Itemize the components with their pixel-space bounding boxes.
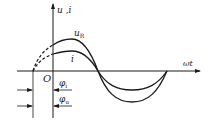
y-axis-label: u ,i bbox=[57, 5, 72, 15]
phi-i-label: φi bbox=[59, 78, 67, 89]
phi-u-label: φu bbox=[59, 94, 69, 105]
i-label: i bbox=[71, 54, 74, 64]
i-curve-dashed bbox=[33, 54, 53, 71]
x-axis-label: ωt bbox=[183, 59, 194, 68]
waveform-diagram: u ,i ωt O uR i φi φu bbox=[0, 0, 208, 124]
uR-curve-dashed bbox=[33, 45, 53, 71]
origin-label: O bbox=[43, 73, 51, 84]
uR-label: uR bbox=[74, 28, 85, 39]
